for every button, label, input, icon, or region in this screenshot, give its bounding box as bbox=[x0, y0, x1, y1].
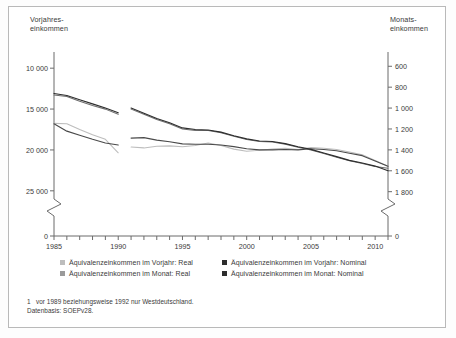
series-line bbox=[131, 109, 388, 168]
left-y-tick-label: 25 000 bbox=[8, 187, 48, 196]
plot-area bbox=[0, 0, 456, 338]
series-line bbox=[131, 143, 388, 166]
legend-swatch-icon bbox=[60, 260, 65, 265]
x-tick-label: 2005 bbox=[293, 242, 329, 251]
footnote-text-2: Datenbasis: SOEPv28. bbox=[27, 307, 93, 314]
legend-label: Äquivalenzeinkommen im Monat: Nominal bbox=[231, 270, 364, 277]
left-y-tick-label: 20 000 bbox=[8, 146, 48, 155]
legend-label: Äquivalenzeinkommen im Monat: Real bbox=[69, 270, 190, 277]
left-y-tick-label: 0 bbox=[8, 232, 48, 241]
right-y-tick-label: 1 200 bbox=[395, 125, 413, 134]
legend-item[interactable]: Äquivalenzeinkommen im Vorjahr: Nominal bbox=[222, 257, 440, 268]
legend-label: Äquivalenzeinkommen im Vorjahr: Real bbox=[69, 259, 193, 266]
right-y-tick-label: 1 400 bbox=[395, 146, 413, 155]
right-y-tick-label: 1 800 bbox=[395, 188, 413, 197]
left-y-tick-label: 15 000 bbox=[8, 105, 48, 114]
footnote: 1vor 1989 beziehungsweise 1992 nur Westd… bbox=[27, 297, 427, 315]
footnote-text-1: vor 1989 beziehungsweise 1992 nur Westde… bbox=[36, 298, 194, 305]
x-tick-label: 1990 bbox=[100, 242, 136, 251]
x-tick-label: 2000 bbox=[229, 242, 265, 251]
chart-page: Vorjahres- einkommen Monats- einkommen 1… bbox=[0, 0, 456, 338]
legend-item[interactable]: Äquivalenzeinkommen im Monat: Nominal bbox=[222, 268, 440, 279]
footnote-line-2: Datenbasis: SOEPv28. bbox=[27, 306, 427, 315]
series-line bbox=[54, 95, 118, 114]
series-line bbox=[54, 123, 118, 152]
legend-label: Äquivalenzeinkommen im Vorjahr: Nominal bbox=[231, 259, 366, 266]
footnote-marker: 1 bbox=[27, 297, 36, 306]
right-y-tick-label: 0 bbox=[395, 232, 399, 241]
legend-swatch-icon bbox=[60, 271, 65, 276]
legend-item[interactable]: Äquivalenzeinkommen im Monat: Real bbox=[60, 268, 222, 279]
x-tick-label: 2010 bbox=[357, 242, 393, 251]
chart-legend: Äquivalenzeinkommen im Vorjahr: RealÄqui… bbox=[60, 257, 440, 279]
right-y-tick-label: 1 000 bbox=[395, 104, 413, 113]
right-y-tick-label: 600 bbox=[395, 62, 407, 71]
legend-swatch-icon bbox=[222, 260, 227, 265]
legend-item[interactable]: Äquivalenzeinkommen im Vorjahr: Real bbox=[60, 257, 222, 268]
footnote-line-1: 1vor 1989 beziehungsweise 1992 nur Westd… bbox=[27, 297, 427, 306]
legend-swatch-icon bbox=[222, 271, 227, 276]
right-y-tick-label: 800 bbox=[395, 83, 407, 92]
x-tick-label: 1995 bbox=[164, 242, 200, 251]
x-tick-label: 1985 bbox=[36, 242, 72, 251]
left-y-tick-label: 10 000 bbox=[8, 64, 48, 73]
series-line bbox=[54, 124, 118, 145]
right-y-tick-label: 1 600 bbox=[395, 167, 413, 176]
